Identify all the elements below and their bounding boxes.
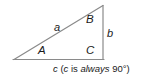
caption-always-text: always	[80, 63, 109, 74]
vertex-label-a: A	[38, 45, 46, 56]
caption-is-text: is	[68, 63, 80, 74]
vertex-label-c: C	[86, 45, 94, 56]
caption-value-text: 90°)	[110, 63, 130, 74]
right-triangle-figure: A B C a b c (c is always 90°)	[0, 0, 155, 77]
side-label-a: a	[54, 22, 60, 33]
side-label-b: b	[107, 28, 113, 39]
vertex-label-b: B	[86, 14, 94, 25]
figure-caption: c (c is always 90°)	[53, 63, 130, 74]
